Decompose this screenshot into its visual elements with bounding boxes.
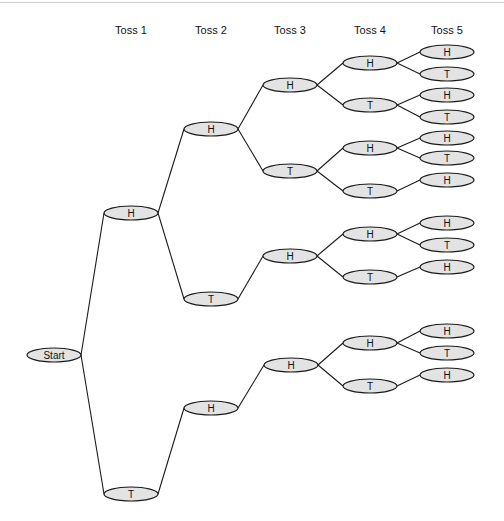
edge-t4d-t5g <box>397 180 420 191</box>
tree-node-t4c: H <box>343 141 397 155</box>
tree-node-t5m: H <box>420 368 474 382</box>
node-label: H <box>127 208 134 219</box>
column-labels: Toss 1Toss 2Toss 3Toss 4Toss 5 <box>115 24 463 36</box>
node-label: T <box>208 294 214 305</box>
edge-t1H-t2HH <box>158 129 184 213</box>
edge-t3THH-t4h <box>318 365 343 386</box>
tree-node-t1T: T <box>104 487 158 501</box>
tree-node-t4g: H <box>343 336 397 350</box>
tree-node-t4h: T <box>343 379 397 393</box>
column-label-toss-5: Toss 5 <box>431 24 463 36</box>
node-label: H <box>443 218 450 229</box>
tree-node-t4f: T <box>343 270 397 284</box>
tree-node-t4b: T <box>343 98 397 112</box>
edge-t3HHT-t4d <box>317 171 343 191</box>
node-label: H <box>366 143 373 154</box>
edge-t4f-t5j <box>397 267 420 277</box>
node-label: T <box>444 112 450 123</box>
node-label: H <box>287 360 294 371</box>
column-label-toss-3: Toss 3 <box>274 24 306 36</box>
edge-t3HHH-t4b <box>317 85 343 105</box>
edge-t3HHH-t4a <box>317 63 343 85</box>
edge-t4c-t5f <box>397 148 420 158</box>
edge-t4e-t5h <box>397 223 420 234</box>
tree-node-t3HTH: H <box>263 249 317 263</box>
node-label: T <box>444 348 450 359</box>
edge-t1H-t2HT <box>158 213 184 299</box>
node-label: T <box>367 100 373 111</box>
edge-t4a-t5a <box>397 52 420 63</box>
edge-t3HHT-t4c <box>317 148 343 171</box>
edge-t4g-t5k <box>397 331 420 343</box>
node-label: H <box>443 175 450 186</box>
edge-t2HT-t3HTH <box>238 256 263 299</box>
tree-node-t4a: H <box>343 56 397 70</box>
tree-node-t4d: T <box>343 184 397 198</box>
node-label: T <box>367 272 373 283</box>
tree-node-t5j: H <box>420 260 474 274</box>
edge-start-t1T <box>81 355 104 494</box>
column-label-toss-1: Toss 1 <box>115 24 147 36</box>
tree-node-t5f: T <box>420 151 474 165</box>
tree-node-start: Start <box>27 348 81 362</box>
node-label: H <box>443 133 450 144</box>
tree-node-t2HH: H <box>184 122 238 136</box>
tree-node-t5d: T <box>420 110 474 124</box>
edge-t4h-t5m <box>397 375 420 386</box>
coin-toss-tree-diagram: Toss 1Toss 2Toss 3Toss 4Toss 5 StartHTHT… <box>0 0 504 521</box>
tree-node-t3HHH: H <box>263 78 317 92</box>
node-label: H <box>366 58 373 69</box>
edge-t4c-t5e <box>397 138 420 148</box>
edge-t3HTH-t4f <box>317 256 343 277</box>
node-label: H <box>443 370 450 381</box>
node-label: H <box>286 251 293 262</box>
node-label: H <box>366 338 373 349</box>
edge-t3HTH-t4e <box>317 234 343 256</box>
node-label: H <box>207 403 214 414</box>
edge-t4g-t5l <box>397 343 420 353</box>
node-label: T <box>444 69 450 80</box>
tree-node-t4e: H <box>343 227 397 241</box>
node-label: H <box>366 229 373 240</box>
tree-node-t2HT: T <box>184 292 238 306</box>
tree-node-t5a: H <box>420 45 474 59</box>
tree-node-t5g: H <box>420 173 474 187</box>
tree-node-t5h: H <box>420 216 474 230</box>
edge-t3THH-t4g <box>318 343 343 365</box>
edge-t2HH-t3HHT <box>238 129 263 171</box>
edge-start-t1H <box>81 213 104 355</box>
tree-node-t1H: H <box>104 206 158 220</box>
node-label: T <box>128 489 134 500</box>
node-label: T <box>287 166 293 177</box>
node-label: T <box>367 186 373 197</box>
edge-t4b-t5c <box>397 95 420 105</box>
edge-t4b-t5d <box>397 105 420 117</box>
node-label: T <box>444 153 450 164</box>
node-label: H <box>443 326 450 337</box>
tree-node-t5l: T <box>420 346 474 360</box>
node-label: T <box>367 381 373 392</box>
column-label-toss-2: Toss 2 <box>195 24 227 36</box>
tree-node-t5c: H <box>420 88 474 102</box>
node-label: H <box>443 47 450 58</box>
tree-node-t5k: H <box>420 324 474 338</box>
node-label: T <box>444 240 450 251</box>
tree-node-t5e: H <box>420 131 474 145</box>
tree-node-t5b: T <box>420 67 474 81</box>
node-label: H <box>443 262 450 273</box>
tree-node-t3THH: H <box>264 358 318 372</box>
edge-t2HH-t3HHH <box>238 85 263 129</box>
column-label-toss-4: Toss 4 <box>354 24 386 36</box>
node-label: H <box>286 80 293 91</box>
node-label: H <box>207 124 214 135</box>
edge-t1T-t2TH <box>158 408 184 494</box>
tree-node-t5i: T <box>420 238 474 252</box>
node-label: Start <box>43 350 64 361</box>
node-label: H <box>443 90 450 101</box>
edge-t4e-t5i <box>397 234 420 245</box>
edge-t4a-t5b <box>397 63 420 74</box>
edge-t2TH-t3THH <box>238 365 264 408</box>
tree-node-t2TH: H <box>184 401 238 415</box>
tree-node-t3HHT: T <box>263 164 317 178</box>
